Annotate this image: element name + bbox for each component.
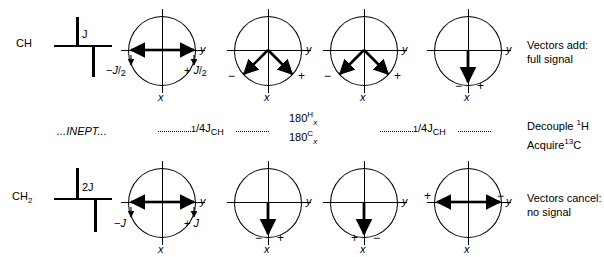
pulse-h-value: 180 <box>289 112 307 124</box>
axis-label-x: x <box>360 244 366 255</box>
multiplet-line-up <box>76 17 79 46</box>
caption-ch-line2: full signal <box>527 52 573 66</box>
j-numerator: J <box>120 217 126 229</box>
sign-plus: + <box>277 232 284 244</box>
axis-label-y: y <box>402 196 408 207</box>
delay-label-2: 1/4JCH <box>413 122 446 138</box>
sign-plus: + <box>184 217 190 229</box>
vector-panel-ch2-3: y x + − <box>320 160 416 257</box>
vector-panel-ch-4: y x − + <box>424 8 520 108</box>
multiplet-ch2: 2J <box>54 165 114 237</box>
label-minus-j: −J <box>114 217 126 229</box>
vector-panel-ch2-4: y x + − <box>424 160 520 257</box>
sign-minus: − <box>324 70 331 82</box>
axis-label-x: x <box>360 92 366 103</box>
label-minus-j-half: −J/2 <box>106 64 126 79</box>
j-numerator: J <box>194 217 200 229</box>
decouple-nucleus: H <box>581 120 589 132</box>
row-label-ch-text: CH <box>16 37 32 49</box>
sign-plus: + <box>424 190 431 202</box>
vector-panel-ch-3: y x − + <box>320 8 416 108</box>
vector-arrows <box>424 8 520 108</box>
label-plus-j-half: + J/2 <box>184 64 207 79</box>
axis-label-y: y <box>200 196 206 207</box>
axis-label-x: x <box>464 244 470 255</box>
axis-label-x: x <box>264 92 270 103</box>
row-label-ch2-subscript: 2 <box>28 196 32 205</box>
vector-arrows <box>424 160 520 257</box>
delay-denominator: 4J <box>199 122 211 134</box>
caption-ch2-line2: no signal <box>527 205 571 219</box>
delay-dots-right-1 <box>236 131 269 132</box>
delay-subscript: CH <box>211 127 224 137</box>
vector-arrows <box>224 160 320 257</box>
delay-denominator: 4J <box>421 122 433 134</box>
j-denominator: 2 <box>121 68 126 78</box>
caption-ch2-line1: Vectors cancel: <box>527 191 602 205</box>
vector-panel-ch-2: y x − + <box>224 8 320 108</box>
pulse-180-h: 180Hx <box>289 108 317 129</box>
sign-plus: + <box>394 70 401 82</box>
row-label-ch2: CH2 <box>12 191 32 206</box>
axis-label-y: y <box>402 44 408 55</box>
vector-arrows <box>118 160 214 257</box>
vector-arrows <box>320 160 416 257</box>
sign-plus: + <box>298 70 305 82</box>
sign-minus: − <box>255 232 262 244</box>
acquire-text: Acquire <box>527 139 564 151</box>
pulse-c-value: 180 <box>289 131 307 143</box>
axis-label-y: y <box>506 196 512 207</box>
row-label-ch2-text: CH <box>12 190 28 202</box>
delay-dots-right-2 <box>458 131 491 132</box>
sequence-inept-label: ...INEPT... <box>57 125 107 137</box>
sign-plus: + <box>351 232 358 244</box>
sign-minus: − <box>455 80 462 92</box>
vector-panel-ch-1: y x −J/2 + J/2 <box>118 8 214 108</box>
delay-dots-left-1 <box>158 131 191 132</box>
vector-arrows <box>320 8 416 108</box>
pulse-c-phase: x <box>313 137 317 146</box>
delay-dots-left-2 <box>380 131 413 132</box>
decouple-text: Decouple <box>527 120 577 132</box>
axis-label-y: y <box>506 44 512 55</box>
multiplet-baseline <box>54 198 112 200</box>
vector-tick-arrows <box>118 8 214 108</box>
multiplet-ch: J <box>54 12 114 84</box>
axis-label-y: y <box>306 196 312 207</box>
axis-label-x: x <box>264 244 270 255</box>
acquire-nucleus: C <box>573 139 581 151</box>
vector-arrows <box>224 8 320 108</box>
sign-minus: − <box>228 70 235 82</box>
multiplet-line-down <box>94 198 97 232</box>
axis-label-y: y <box>306 44 312 55</box>
multiplet-line-down <box>92 45 95 77</box>
acquire-label: Acquire13C <box>527 135 581 152</box>
vector-panel-ch2-1: y x −J + J <box>118 160 214 257</box>
multiplet-j-label: J <box>82 29 88 40</box>
multiplet-baseline <box>54 45 112 47</box>
delay-subscript: CH <box>433 127 446 137</box>
row-label-ch: CH <box>16 38 32 49</box>
vector-panel-ch2-2: y x − + <box>224 160 320 257</box>
sign-minus: − <box>373 232 380 244</box>
multiplet-line-up <box>76 168 79 199</box>
axis-label-x: x <box>464 92 470 103</box>
axis-label-x: x <box>158 244 164 255</box>
acquire-mass: 13 <box>564 137 573 146</box>
pulse-h-phase: x <box>313 118 317 127</box>
pulse-180-c: 180Cx <box>289 127 317 148</box>
sign-plus: + <box>184 64 190 76</box>
j-denominator: 2 <box>202 68 207 78</box>
caption-ch-line1: Vectors add: <box>527 38 588 52</box>
decouple-label: Decouple 1H <box>527 116 589 133</box>
multiplet-2j-label: 2J <box>82 182 94 193</box>
label-plus-j: + J <box>184 217 199 229</box>
sign-plus: + <box>477 80 484 92</box>
sign-minus: − <box>497 190 504 202</box>
delay-label-1: 1/4JCH <box>191 122 224 138</box>
